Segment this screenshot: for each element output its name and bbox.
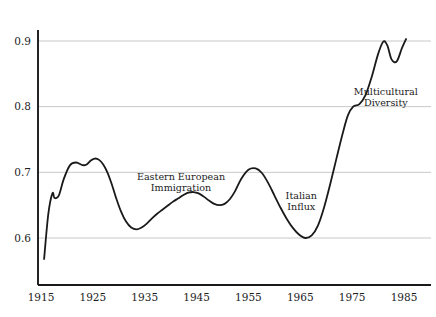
- x-tick-label-1925: 1925: [79, 291, 106, 303]
- chart-canvas: 0.60.70.80.9 191519251935194519551965197…: [0, 0, 436, 317]
- annotation-eastern-european-immigration: Eastern EuropeanImmigration: [137, 171, 225, 193]
- annotations-group: Eastern EuropeanImmigrationItalianInflux…: [137, 86, 418, 212]
- x-tick-label-1985: 1985: [391, 291, 418, 303]
- y-tick-label-0.7: 0.7: [14, 166, 31, 178]
- x-tick-label-1955: 1955: [235, 291, 262, 303]
- data-line-series-1: [44, 39, 406, 259]
- x-tick-label-1945: 1945: [183, 291, 210, 303]
- data-series-group: [44, 39, 406, 259]
- annotation-multicultural-diversity: MulticulturalDiversity: [354, 86, 418, 108]
- y-axis-tick-labels: 0.60.70.80.9: [14, 35, 31, 244]
- annotation-italian-influx: ItalianInflux: [286, 190, 317, 212]
- axes-group: [38, 30, 431, 285]
- x-tick-label-1965: 1965: [287, 291, 314, 303]
- x-tick-label-1915: 1915: [28, 291, 55, 303]
- gridlines-group: [38, 41, 431, 238]
- line-chart: 0.60.70.80.9 191519251935194519551965197…: [0, 0, 436, 317]
- y-tick-label-0.9: 0.9: [14, 35, 31, 47]
- x-tick-label-1975: 1975: [339, 291, 366, 303]
- x-tick-label-1935: 1935: [131, 291, 158, 303]
- x-axis-tick-labels: 19151925193519451955196519751985: [28, 291, 418, 303]
- y-tick-label-0.6: 0.6: [14, 232, 31, 244]
- y-tick-label-0.8: 0.8: [14, 100, 31, 112]
